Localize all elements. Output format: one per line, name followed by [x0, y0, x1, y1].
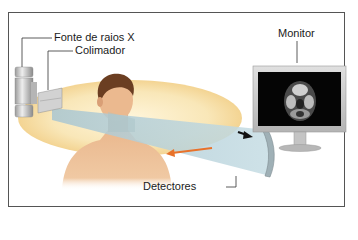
ct-head-slice: [284, 81, 316, 121]
label-monitor: Monitor: [278, 28, 315, 39]
label-detectors: Detectores: [143, 181, 196, 192]
label-xray-source: Fonte de raios X: [54, 32, 135, 43]
label-collimator: Colimador: [75, 45, 125, 56]
